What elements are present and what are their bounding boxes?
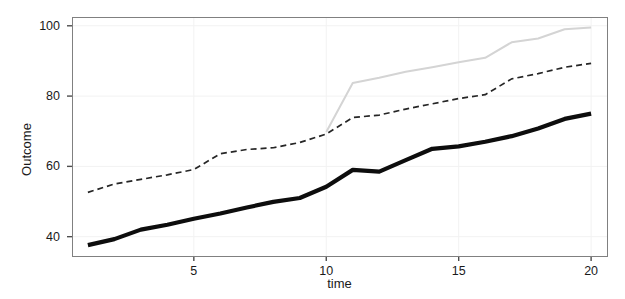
chart-figure: Outcome time 4060801005101520 bbox=[0, 0, 625, 299]
grid-lines bbox=[72, 17, 607, 256]
axis-tick-marks bbox=[67, 26, 591, 261]
plot-area bbox=[0, 0, 625, 299]
panel-border bbox=[73, 18, 608, 257]
data-line-dashed-dark bbox=[88, 63, 591, 192]
data-line-solid-black-thick bbox=[88, 114, 591, 245]
data-series-layer bbox=[88, 28, 591, 246]
